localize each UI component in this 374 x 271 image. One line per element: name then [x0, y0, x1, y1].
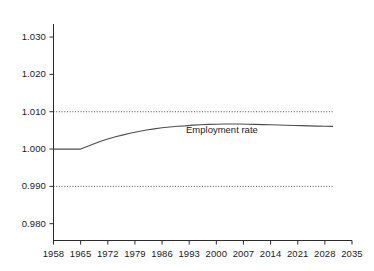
y-tick-label: 1.030: [8, 32, 46, 42]
y-tick-label: 1.020: [8, 69, 46, 79]
reference-lines: [54, 112, 333, 187]
x-axis-ticks: [54, 241, 353, 245]
x-tick-label: 2035: [336, 249, 368, 259]
y-tick-label: 0.980: [8, 219, 46, 229]
y-axis-ticks: [50, 37, 54, 224]
employment-rate-chart: 1.0301.0201.0101.0000.9900.980 195819651…: [0, 0, 374, 271]
chart-canvas: [0, 0, 374, 271]
y-tick-label: 1.010: [8, 107, 46, 117]
y-tick-label: 1.000: [8, 144, 46, 154]
y-tick-label: 0.990: [8, 181, 46, 191]
series-label-employment-rate: Employment rate: [186, 124, 258, 135]
